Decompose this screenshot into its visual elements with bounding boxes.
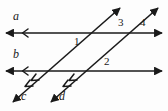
geometry-diagram: a b c d 1 2 3 4 xyxy=(0,0,168,111)
line-label-b: b xyxy=(13,48,19,60)
angle-label-4: 4 xyxy=(140,17,146,28)
line-label-d: d xyxy=(59,90,65,102)
angle-label-1: 1 xyxy=(74,36,80,47)
line-a xyxy=(6,29,162,37)
line-d-tick-icon-2 xyxy=(69,74,77,81)
line-label-a: a xyxy=(13,10,19,22)
line-c-tick-icon-2 xyxy=(31,74,39,81)
line-label-c: c xyxy=(21,90,26,102)
angle-label-2: 2 xyxy=(104,56,110,67)
angle-label-3: 3 xyxy=(118,17,124,28)
